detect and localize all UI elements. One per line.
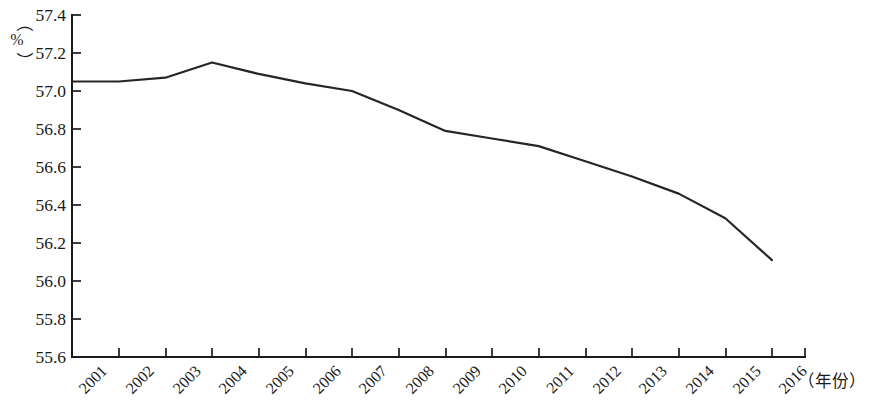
y-tick-marks — [72, 15, 81, 319]
x-tick-label: 2015 — [729, 362, 764, 397]
y-tick-label: 56.0 — [35, 271, 66, 291]
y-tick-label: 56.4 — [35, 195, 66, 215]
x-tick-label: 2010 — [495, 362, 530, 397]
x-tick-label: 2005 — [262, 362, 297, 397]
x-tick-label: 2014 — [682, 362, 717, 397]
x-tick-label: 2012 — [589, 362, 624, 397]
y-tick-label: 56.6 — [35, 157, 66, 177]
y-tick-labels: 57.4 57.2 57.0 56.8 56.6 56.4 56.2 56.0 … — [35, 5, 66, 367]
y-tick-label: 56.2 — [35, 233, 66, 253]
x-tick-label: 2006 — [309, 362, 344, 397]
y-unit-open-paren: （ — [14, 15, 33, 32]
x-tick-label: 2004 — [215, 362, 250, 397]
y-unit-close-paren: ） — [14, 52, 33, 69]
line-chart: （ % ） 57.4 57.2 57.0 56.8 56.6 56.4 56.2… — [0, 0, 869, 405]
x-tick-label: 2001 — [75, 362, 110, 397]
x-tick-label: 2007 — [355, 362, 390, 397]
x-axis-title: （年份） — [798, 372, 866, 390]
y-tick-label: 57.4 — [35, 5, 66, 25]
x-tick-label: 2009 — [449, 362, 484, 397]
y-tick-label: 57.0 — [35, 81, 66, 101]
x-tick-label: 2008 — [402, 362, 437, 397]
y-tick-label: 55.6 — [35, 347, 66, 367]
y-tick-label: 55.8 — [35, 309, 66, 329]
chart-canvas: （ % ） 57.4 57.2 57.0 56.8 56.6 56.4 56.2… — [0, 0, 869, 405]
x-tick-marks — [72, 348, 805, 357]
data-series-line — [72, 63, 772, 261]
y-unit-percent: % — [10, 31, 23, 48]
x-tick-label: 2003 — [169, 362, 204, 397]
x-tick-labels: 2001 2002 2003 2004 2005 2006 2007 2008 … — [75, 362, 810, 397]
y-tick-label: 57.2 — [35, 43, 66, 63]
x-tick-label: 2013 — [635, 362, 670, 397]
x-tick-label: 2011 — [543, 362, 577, 396]
y-tick-label: 56.8 — [35, 119, 66, 139]
y-axis-unit-label: （ % ） — [10, 15, 33, 69]
x-tick-label: 2002 — [122, 362, 157, 397]
